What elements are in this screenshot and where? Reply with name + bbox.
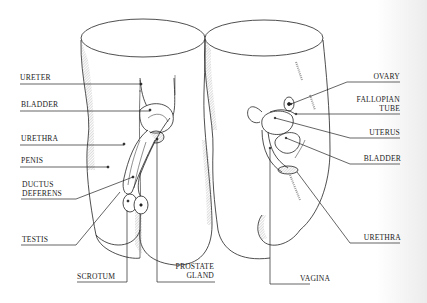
label-urethra-male: URETHRA — [21, 135, 58, 143]
label-ductus-deferens-line2: DEFERENS — [22, 190, 62, 198]
label-ureter: URETER — [20, 74, 51, 82]
label-bladder-male: BLADDER — [21, 101, 58, 109]
label-fallopian-tube-line1: FALLOPIAN — [340, 96, 400, 104]
label-urethra-female: URETHRA — [340, 234, 401, 242]
label-scrotum: SCROTUM — [77, 273, 115, 281]
label-prostate-gland-line2: GLAND — [170, 272, 214, 280]
label-penis: PENIS — [21, 157, 43, 165]
label-testis: TESTIS — [22, 236, 48, 244]
female-torso — [205, 20, 330, 259]
label-fallopian-tube-line2: TUBE — [340, 105, 400, 113]
male-organs — [107, 78, 175, 214]
label-ductus-deferens-line1: DUCTUS — [22, 181, 54, 189]
label-vagina: VAGINA — [300, 275, 330, 283]
label-uterus: UTERUS — [340, 129, 400, 137]
label-ovary: OVARY — [350, 73, 400, 81]
female-organs — [248, 97, 305, 174]
torso-illustrations — [0, 0, 427, 303]
label-bladder-female: BLADDER — [340, 155, 401, 163]
label-prostate-gland-line1: PROSTATE — [170, 263, 214, 271]
anatomy-diagram: URETER BLADDER URETHRA PENIS DUCTUS DEFE… — [0, 0, 427, 303]
